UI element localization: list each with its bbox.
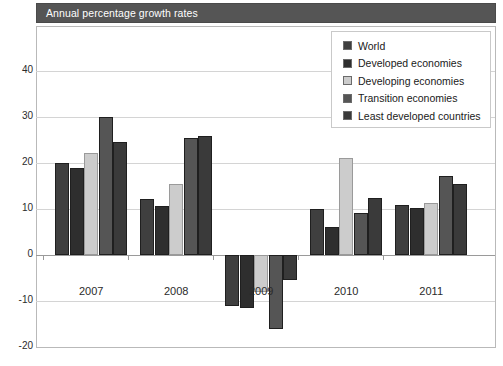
legend-item-label: Developing economies (358, 75, 464, 87)
chart-figure: Annual percentage growth rates 403020100… (0, 0, 503, 366)
x-tick-label: 2011 (385, 285, 477, 297)
bar (99, 117, 113, 255)
bar (84, 153, 98, 255)
legend-item-label: Developed economies (358, 57, 462, 69)
x-tick-mark (213, 256, 214, 260)
legend-item-label: Transition economies (358, 92, 457, 104)
gridline--20 (36, 347, 495, 348)
bar (424, 203, 438, 255)
bar (325, 227, 339, 255)
bar (140, 199, 154, 255)
bar (169, 184, 183, 255)
x-tick-mark (128, 256, 129, 260)
y-tick-label: 20 (3, 156, 33, 167)
x-tick-label: 2008 (130, 285, 222, 297)
bar (439, 176, 453, 255)
x-tick-mark (383, 256, 384, 260)
bar (113, 142, 127, 255)
y-tick-label: 0 (3, 248, 33, 259)
legend-item[interactable]: World (332, 37, 490, 55)
y-tick-label: 30 (3, 110, 33, 121)
page-title: Annual percentage growth rates (46, 7, 198, 19)
legend-item[interactable]: Developing economies (332, 72, 490, 90)
y-tick-label: 40 (3, 64, 33, 75)
legend-swatch-icon (343, 94, 352, 103)
y-tick-label: -20 (3, 340, 33, 351)
legend-item-label: World (358, 40, 385, 52)
bar (198, 136, 212, 255)
bar (155, 206, 169, 255)
chart-legend: WorldDeveloped economiesDeveloping econo… (331, 31, 491, 128)
bar (354, 213, 368, 255)
y-tick-label: 10 (3, 202, 33, 213)
bar (339, 158, 353, 255)
y-axis-labels: 403020100-10-20 (0, 0, 33, 366)
legend-swatch-icon (343, 59, 352, 68)
x-tick-mark (43, 256, 44, 260)
y-tick-label: -10 (3, 294, 33, 305)
bar (283, 255, 297, 280)
legend-swatch-icon (343, 41, 352, 50)
x-tick-mark (298, 256, 299, 260)
bar (310, 209, 324, 255)
legend-item[interactable]: Transition economies (332, 90, 490, 108)
x-tick-label: 2009 (215, 285, 307, 297)
bar (453, 184, 467, 255)
x-tick-label: 2007 (45, 285, 137, 297)
bar (240, 255, 254, 308)
bar (225, 255, 239, 306)
bar (368, 198, 382, 256)
bar (395, 205, 409, 255)
legend-item-label: Least developed countries (358, 110, 481, 122)
legend-item[interactable]: Developed economies (332, 55, 490, 73)
bar (410, 208, 424, 255)
legend-swatch-icon (343, 111, 352, 120)
bar (70, 168, 84, 255)
legend-swatch-icon (343, 76, 352, 85)
legend-item[interactable]: Least developed countries (332, 107, 490, 125)
chart-title-bar: Annual percentage growth rates (36, 3, 496, 23)
bar (184, 138, 198, 255)
bar (55, 163, 69, 255)
x-tick-label: 2010 (300, 285, 392, 297)
